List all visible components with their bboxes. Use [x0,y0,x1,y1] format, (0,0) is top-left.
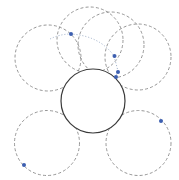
marker-dot [69,32,73,36]
dashed-circle-top-middle [78,12,144,78]
marker-dot [113,54,117,58]
marker-dot [116,70,120,74]
marker-dot [114,75,118,79]
diagram-canvas [0,0,179,180]
marker-dot [22,163,26,167]
marker-dot [159,119,163,123]
dashed-circle-top-left [57,7,123,73]
